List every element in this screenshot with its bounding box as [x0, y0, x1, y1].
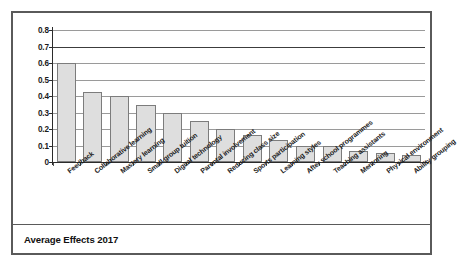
- y-tick-label: 0.3: [38, 108, 49, 117]
- y-tick-label: 0.8: [38, 26, 49, 35]
- y-tick-label: 0.2: [38, 125, 49, 134]
- x-label-slot: Mastery learning: [106, 167, 133, 227]
- y-tick-label: 0.4: [38, 92, 49, 101]
- y-tick-label: 0.5: [38, 75, 49, 84]
- caption-divider: [13, 224, 430, 225]
- x-label-slot: Physical environment: [372, 167, 399, 227]
- x-label-slot: Learning styles: [266, 167, 293, 227]
- x-label-slot: Teaching assistants: [319, 167, 346, 227]
- x-label-slot: Small group tuition: [133, 167, 160, 227]
- y-tick-label: 0.1: [38, 141, 49, 150]
- x-label-slot: Ability grouping: [399, 167, 426, 227]
- y-tick-label: 0.7: [38, 42, 49, 51]
- bar[interactable]: [83, 92, 102, 162]
- x-label-slot: Mentoring: [345, 167, 372, 227]
- y-axis-labels: 00.10.20.30.40.50.60.70.8: [27, 30, 49, 162]
- bar-slot: [80, 30, 107, 162]
- x-axis-labels: FeedbackCollaborative learningMastery le…: [53, 167, 425, 227]
- chart-caption: Average Effects 2017: [24, 234, 118, 245]
- x-label-slot: Reducing class size: [212, 167, 239, 227]
- x-label-slot: Parental involvement: [186, 167, 213, 227]
- x-label-slot: After school programmes: [292, 167, 319, 227]
- x-label-slot: Collaborative learning: [80, 167, 107, 227]
- x-tick-mark: [53, 163, 54, 166]
- chart-figure: 00.10.20.30.40.50.60.70.8 FeedbackCollab…: [11, 11, 432, 255]
- bar[interactable]: [57, 63, 76, 162]
- plot-area: 00.10.20.30.40.50.60.70.8 FeedbackCollab…: [13, 13, 430, 228]
- x-label-slot: Sports participation: [239, 167, 266, 227]
- y-tick-label: 0.6: [38, 59, 49, 68]
- x-label-slot: Feedback: [53, 167, 80, 227]
- x-label-slot: Digital technology: [159, 167, 186, 227]
- bar-slot: [53, 30, 80, 162]
